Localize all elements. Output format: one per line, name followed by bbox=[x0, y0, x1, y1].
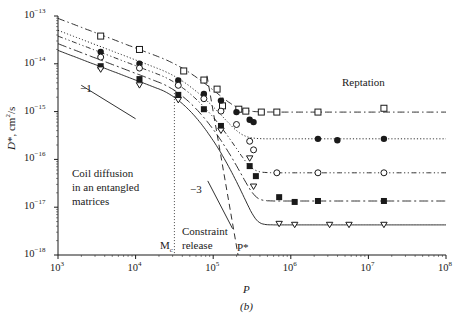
figure-caption: (b) bbox=[240, 300, 253, 312]
x-tick-label: 105 bbox=[205, 260, 219, 273]
filled-square-marker bbox=[136, 76, 142, 82]
filled-square-marker bbox=[201, 106, 207, 112]
open-triangle-down-marker bbox=[136, 83, 142, 88]
filled-square-marker bbox=[292, 199, 298, 205]
open-square-marker bbox=[214, 86, 220, 92]
constraint-release-label-1: Constraint bbox=[182, 225, 228, 237]
open-square-marker bbox=[243, 108, 249, 114]
open-triangle-down-marker bbox=[250, 184, 256, 189]
open-square-marker bbox=[274, 109, 280, 115]
y-tick-label: 10−18 bbox=[24, 246, 45, 259]
open-circle-marker bbox=[136, 65, 142, 71]
x-tick-label: 107 bbox=[360, 260, 374, 273]
reptation-label: Reptation bbox=[342, 76, 385, 88]
series-markers bbox=[97, 33, 387, 228]
open-triangle-down-marker bbox=[246, 156, 252, 161]
filled-circle-marker bbox=[233, 109, 239, 115]
mc-label: Mc bbox=[160, 239, 173, 256]
y-axis-label: DD*, cm²/s*, cm2/s bbox=[4, 107, 17, 150]
x-tick-label: 106 bbox=[283, 260, 297, 273]
open-circle-marker bbox=[274, 170, 280, 176]
open-circle-marker bbox=[98, 54, 104, 60]
filled-square-marker bbox=[276, 194, 282, 200]
slope-minus-1-label: −1 bbox=[80, 82, 92, 94]
x-axis-label: P bbox=[243, 283, 250, 295]
curve-open-triangle-down bbox=[58, 50, 446, 225]
open-square-marker bbox=[181, 68, 187, 74]
open-circle-marker bbox=[247, 138, 253, 144]
y-tick-label: 10−13 bbox=[24, 7, 45, 20]
filled-square-marker bbox=[175, 92, 181, 98]
filled-circle-marker bbox=[315, 136, 321, 142]
p-star-label: P* bbox=[237, 241, 249, 253]
open-circle-marker bbox=[218, 108, 224, 114]
filled-square-marker bbox=[253, 173, 259, 179]
y-tick-label: 10−16 bbox=[24, 150, 45, 163]
open-triangle-down-marker bbox=[218, 128, 224, 133]
open-square-marker bbox=[136, 46, 142, 52]
coil-diffusion-label-3: matrices bbox=[72, 195, 109, 207]
filled-square-marker bbox=[247, 163, 253, 169]
open-circle-marker bbox=[175, 82, 181, 88]
open-square-marker bbox=[315, 109, 321, 115]
open-circle-marker bbox=[251, 147, 257, 153]
y-tick-label: 10−15 bbox=[24, 103, 45, 116]
filled-circle-marker bbox=[381, 136, 387, 142]
open-square-marker bbox=[201, 77, 207, 83]
y-tick-label: 10−14 bbox=[24, 55, 45, 68]
open-circle-marker bbox=[233, 122, 239, 128]
slope-minus-3-label: −3 bbox=[190, 183, 202, 195]
x-tick-label: 104 bbox=[128, 260, 142, 273]
filled-circle-marker bbox=[250, 119, 256, 125]
open-circle-marker bbox=[201, 96, 207, 102]
filled-circle-marker bbox=[334, 137, 340, 143]
filled-square-marker bbox=[381, 198, 387, 204]
slope-minus-3-line bbox=[208, 181, 233, 229]
log-log-diffusion-chart bbox=[0, 0, 467, 320]
open-circle-marker bbox=[315, 170, 321, 176]
open-circle-marker bbox=[381, 170, 387, 176]
filled-square-marker bbox=[315, 198, 321, 204]
y-tick-label: 10−17 bbox=[24, 198, 45, 211]
filled-circle-marker bbox=[218, 97, 224, 103]
open-square-marker bbox=[258, 109, 264, 115]
coil-diffusion-label-2: in an entangled bbox=[72, 181, 139, 193]
open-triangle-down-marker bbox=[276, 221, 282, 226]
curve-open-square bbox=[58, 18, 446, 112]
x-tick-label: 108 bbox=[438, 260, 452, 273]
open-square-marker bbox=[98, 33, 104, 39]
coil-diffusion-label-1: Coil diffusion bbox=[72, 167, 133, 179]
open-square-marker bbox=[381, 105, 387, 111]
constraint-release-label-2: release bbox=[182, 239, 213, 251]
x-tick-label: 103 bbox=[50, 260, 64, 273]
open-triangle-down-marker bbox=[97, 67, 103, 72]
